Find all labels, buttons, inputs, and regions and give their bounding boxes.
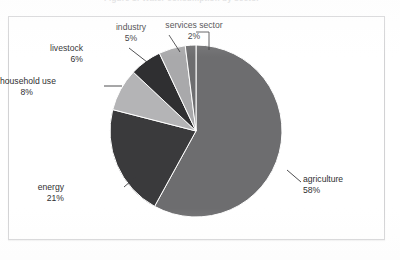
pie-label-name: agriculture <box>303 174 343 185</box>
pie-label-percent: 8% <box>0 87 33 98</box>
pie-label-percent: 6% <box>0 54 83 65</box>
pie-slice-group <box>110 45 282 217</box>
pie-label-percent: 58% <box>303 185 343 196</box>
pie-label-name: energy <box>0 182 64 193</box>
leader-line-livestock <box>129 48 147 62</box>
pie-label-name: livestock <box>0 43 83 54</box>
pie-chart: agriculture58%energy21%household use8%li… <box>0 0 400 260</box>
pie-label-household-use: household use8% <box>0 76 33 97</box>
pie-label-name: services sector <box>149 20 239 31</box>
leader-line-agriculture <box>287 170 301 182</box>
pie-label-percent: 21% <box>0 193 64 204</box>
pie-label-services-sector: services sector2% <box>149 20 239 41</box>
pie-label-livestock: livestock6% <box>0 43 83 64</box>
pie-label-percent: 2% <box>149 31 239 42</box>
pie-label-agriculture: agriculture58% <box>303 174 343 195</box>
pie-label-energy: energy21% <box>0 182 64 203</box>
pie-label-name: household use <box>0 76 33 87</box>
